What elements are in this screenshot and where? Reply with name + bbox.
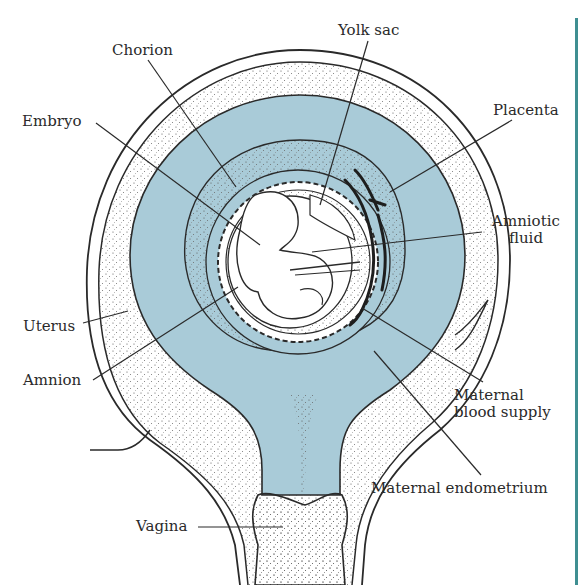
label-uterus: Uterus — [23, 318, 75, 335]
label-chorion: Chorion — [112, 42, 173, 59]
label-maternal-blood-supply: Maternal blood supply — [454, 387, 551, 421]
embryo-in-uterus-diagram: Chorion Yolk sac Embryo Placenta Amnioti… — [0, 0, 582, 585]
label-amniotic-fluid-line1: Amniotic — [484, 213, 568, 230]
diagram-illustration — [0, 0, 582, 585]
label-yolk-sac: Yolk sac — [338, 22, 399, 39]
label-maternal-blood-line1: Maternal — [454, 387, 551, 404]
label-amniotic-fluid: Amniotic fluid — [484, 213, 568, 247]
label-amniotic-fluid-line2: fluid — [484, 230, 568, 247]
vagina-shape — [253, 494, 348, 585]
label-amnion: Amnion — [23, 372, 81, 389]
label-placenta: Placenta — [493, 102, 559, 119]
label-maternal-endometrium: Maternal endometrium — [371, 480, 548, 497]
label-maternal-blood-line2: blood supply — [454, 404, 551, 421]
page-edge-rule — [575, 18, 578, 585]
label-vagina: Vagina — [136, 518, 187, 535]
label-embryo: Embryo — [22, 113, 81, 130]
